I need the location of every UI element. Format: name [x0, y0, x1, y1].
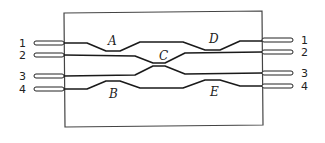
- right-port-label-2: 2: [301, 46, 308, 59]
- right-port-label-3: 3: [301, 67, 308, 80]
- left-port-label-3: 3: [19, 70, 26, 83]
- left-pin-2: [34, 53, 64, 57]
- left-pin-4: [34, 87, 64, 91]
- coupler-label-e: E: [209, 85, 219, 99]
- left-pin-3: [34, 74, 64, 78]
- left-port-label-2: 2: [19, 49, 26, 62]
- right-port-label-4: 4: [301, 80, 308, 93]
- coupler-label-b: B: [108, 87, 118, 101]
- waveguide-diagram: 1 2 3 4 1 2 3 4 A B C D E: [0, 0, 325, 143]
- right-pin-3: [262, 71, 293, 75]
- right-pin-1: [262, 38, 293, 42]
- coupler-label-a: A: [107, 34, 117, 48]
- left-pin-1: [34, 41, 64, 45]
- waveguide-3: [64, 66, 262, 76]
- right-pin-2: [262, 50, 293, 54]
- chip-boundary: [64, 11, 263, 127]
- right-pins: [262, 38, 293, 88]
- left-pins: [34, 41, 64, 91]
- waveguide-4: [64, 80, 262, 89]
- coupler-label-c: C: [159, 49, 168, 63]
- left-port-label-4: 4: [19, 83, 26, 96]
- right-pin-4: [262, 84, 293, 88]
- coupler-label-d: D: [208, 32, 219, 46]
